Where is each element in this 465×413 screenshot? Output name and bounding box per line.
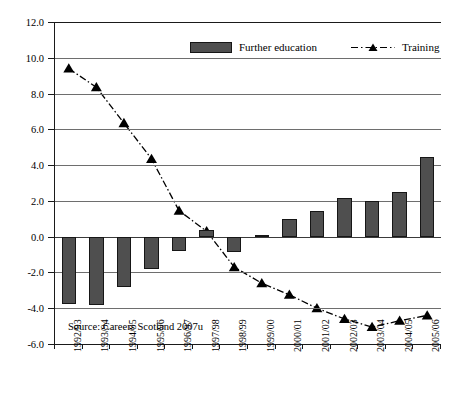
chart-legend: Further education Training: [190, 41, 465, 53]
training-marker-triangle: [422, 310, 433, 319]
y-axis-tick-label: 4.0: [0, 160, 44, 171]
bar-further-education: [227, 237, 241, 252]
y-axis-tick-label: 12.0: [0, 17, 44, 28]
x-axis-tick-mark: [330, 344, 331, 349]
legend-item-further-education: Further education: [190, 41, 317, 53]
chart-container: 12.010.08.06.04.02.00.0-2.0-4.0-6.0 Furt…: [0, 0, 465, 413]
y-axis-tick-label: -6.0: [0, 339, 44, 350]
bar-further-education: [420, 157, 434, 237]
x-axis-tick-mark: [247, 344, 248, 349]
legend-label-training: Training: [402, 41, 440, 53]
y-axis-tick-label: 2.0: [0, 195, 44, 206]
legend-line-triangle-icon: [351, 42, 395, 53]
bar-further-education: [117, 237, 131, 287]
bar-further-education: [62, 237, 76, 304]
gridline: [55, 129, 441, 130]
gridline: [55, 308, 441, 309]
plot-area: [54, 22, 440, 344]
x-axis-tick-mark: [82, 344, 83, 349]
y-axis-tick-label: 0.0: [0, 231, 44, 242]
x-axis-tick-mark: [412, 344, 413, 349]
x-axis-tick-mark: [54, 344, 55, 349]
x-axis-tick-mark: [137, 344, 138, 349]
training-marker-triangle: [174, 206, 185, 215]
x-axis-tick-mark: [385, 344, 386, 349]
x-axis-tick-mark: [275, 344, 276, 349]
bar-further-education: [89, 237, 103, 305]
bar-further-education: [365, 201, 379, 237]
bar-further-education: [392, 192, 406, 237]
bar-further-education: [199, 230, 213, 236]
y-axis-tick-label: 6.0: [0, 124, 44, 135]
gridline: [55, 58, 441, 59]
bar-further-education: [144, 237, 158, 269]
legend-label-further-education: Further education: [239, 41, 317, 53]
training-marker-triangle: [284, 290, 295, 299]
y-axis-tick-label: 10.0: [0, 52, 44, 63]
x-axis-tick-mark: [357, 344, 358, 349]
training-line-series: [55, 22, 441, 344]
gridline: [55, 22, 441, 23]
y-axis-tick-label: 8.0: [0, 88, 44, 99]
training-marker-triangle: [256, 278, 267, 287]
x-axis-tick-mark: [440, 344, 441, 349]
training-marker-triangle: [91, 82, 102, 91]
bar-further-education: [172, 237, 186, 251]
training-marker-triangle: [63, 63, 74, 72]
bar-further-education: [310, 211, 324, 237]
bar-further-education: [337, 198, 351, 236]
bar-further-education: [255, 235, 269, 237]
y-axis-tick-label: -2.0: [0, 267, 44, 278]
gridline: [55, 237, 441, 238]
x-axis-tick-mark: [109, 344, 110, 349]
gridline: [55, 165, 441, 166]
gridline: [55, 272, 441, 273]
x-axis-tick-mark: [192, 344, 193, 349]
bar-further-education: [282, 219, 296, 237]
training-line-path: [69, 69, 427, 327]
x-axis-tick-mark: [219, 344, 220, 349]
legend-bar-swatch-icon: [190, 42, 232, 53]
training-marker-triangle: [146, 154, 157, 163]
legend-item-training: Training: [351, 41, 440, 53]
x-axis-tick-mark: [164, 344, 165, 349]
gridline: [55, 94, 441, 95]
training-marker-triangle: [229, 262, 240, 271]
y-axis-tick-label: -4.0: [0, 303, 44, 314]
training-marker-triangle: [118, 118, 129, 127]
gridline: [55, 201, 441, 202]
x-axis-tick-mark: [302, 344, 303, 349]
